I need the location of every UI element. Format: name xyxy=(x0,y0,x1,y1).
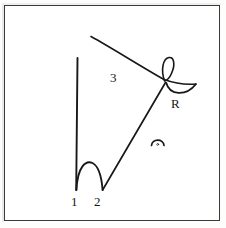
loop-stroke-path xyxy=(163,57,174,81)
drawing-canvas xyxy=(0,0,226,228)
label-stroke-3: 3 xyxy=(110,71,117,84)
arch-stroke-path xyxy=(76,162,102,190)
curve-stroke-3-path xyxy=(91,37,164,80)
label-point-r: R xyxy=(171,97,180,110)
label-stroke-1: 1 xyxy=(71,195,78,208)
diagonal-stroke-2-path xyxy=(103,83,166,191)
arc-dot-mark-arc xyxy=(152,140,165,145)
arc-dot-mark-dot xyxy=(157,143,159,145)
vertical-stroke-1-path xyxy=(76,58,77,190)
curve-stroke-3-tail-path xyxy=(164,80,196,85)
label-stroke-2: 2 xyxy=(94,195,101,208)
figure-root: 1 2 3 R xyxy=(0,0,226,228)
